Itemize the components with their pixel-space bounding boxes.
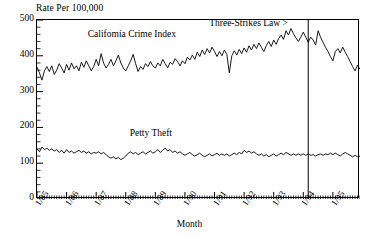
y-axis-ticks: [37, 20, 43, 199]
y-axis-title: Rate Per 100,000: [36, 3, 103, 13]
data-series-group: [37, 29, 360, 160]
x-axis-title: Month: [0, 219, 379, 229]
y-axis-tick-label: 200: [4, 120, 34, 130]
plot-area: [36, 19, 359, 198]
annotation-three-strikes-law: Three-Strikes Law >: [209, 18, 288, 28]
chart-canvas: [37, 20, 360, 199]
y-axis-tick-label: 0: [4, 192, 34, 202]
chart-figure: Rate Per 100,000 0100200300400500 1/851/…: [0, 0, 379, 237]
y-axis-tick-label: 400: [4, 49, 34, 59]
series-label-california-crime-index: Califomia Crime Index: [88, 29, 176, 39]
y-axis-tick-label: 500: [4, 13, 34, 23]
series-label-petty-theft: Petty Theft: [130, 128, 172, 138]
y-axis-tick-label: 100: [4, 156, 34, 166]
y-axis-tick-label: 300: [4, 85, 34, 95]
